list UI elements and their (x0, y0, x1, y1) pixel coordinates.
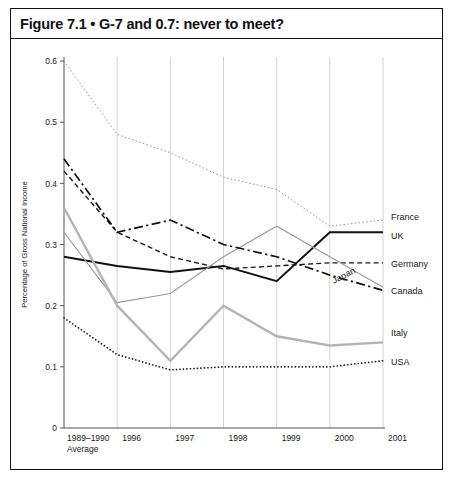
x-axis-tick-label: 1998 (229, 433, 248, 443)
figure-title-bar: Figure 7.1 • G-7 and 0.7: never to meet? (11, 9, 442, 39)
y-axis-tick-label: 0.3 (45, 240, 57, 250)
legend-label-usa: USA (391, 357, 410, 367)
inline-label-japan: Japan (330, 265, 356, 285)
figure-container: Figure 7.1 • G-7 and 0.7: never to meet?… (10, 8, 443, 470)
x-axis-tick-sublabel: Average (67, 444, 99, 454)
y-axis-tick-label: 0.2 (45, 301, 57, 311)
x-axis-tick-label: 1996 (122, 433, 141, 443)
line-chart: 00.10.20.30.40.50.6Percentage of Gross N… (11, 39, 442, 469)
y-axis-tick-label: 0.6 (45, 56, 57, 66)
x-axis-tick-label: 1997 (175, 433, 194, 443)
legend-label-uk: UK (391, 231, 404, 241)
y-axis-tick-label: 0.4 (45, 179, 57, 189)
page-title: Figure 7.1 • G-7 and 0.7: never to meet? (11, 16, 284, 32)
x-axis-tick-label: 1989–1990 (67, 433, 110, 443)
x-axis-tick-label: 2000 (335, 433, 354, 443)
x-axis-tick-label: 1999 (282, 433, 301, 443)
y-axis-tick-label: 0.1 (45, 362, 57, 372)
chart-plot-area: 00.10.20.30.40.50.6Percentage of Gross N… (11, 39, 442, 469)
legend-label-italy: Italy (391, 328, 408, 338)
x-axis-tick-label: 2001 (388, 433, 407, 443)
legend-label-canada: Canada (391, 286, 423, 296)
legend-label-germany: Germany (391, 259, 429, 269)
y-axis-title: Percentage of Gross National Income (20, 181, 29, 308)
y-axis-tick-label: 0 (52, 423, 57, 433)
y-axis-tick-label: 0.5 (45, 117, 57, 127)
legend-label-france: France (391, 212, 419, 222)
